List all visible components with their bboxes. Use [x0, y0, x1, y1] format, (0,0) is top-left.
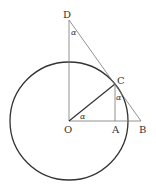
segment-oc: [69, 84, 115, 121]
geometry-diagram: D C O A B α α α: [0, 0, 156, 190]
point-label-c: C: [117, 75, 125, 86]
point-label-b: B: [139, 124, 146, 135]
angle-label-d: α: [71, 28, 77, 37]
angle-label-o: α: [80, 112, 86, 121]
point-label-d: D: [63, 9, 71, 20]
point-label-o: O: [64, 124, 72, 135]
segment-db: [69, 20, 141, 121]
point-label-a: A: [111, 124, 120, 135]
angle-label-c: α: [116, 93, 122, 102]
